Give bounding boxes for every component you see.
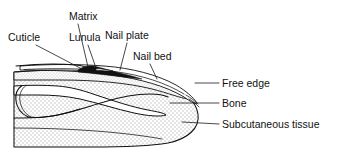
label-nail-bed: Nail bed [133,50,172,62]
label-lunula: Lunula [69,31,101,43]
label-free-edge: Free edge [222,77,270,89]
label-subcutaneous-tissue: Subcutaneous tissue [222,118,320,130]
label-bone: Bone [222,97,247,109]
label-matrix: Matrix [69,10,98,22]
label-cuticle: Cuticle [8,31,40,43]
nail-anatomy-figure: Matrix Cuticle Lunula Nail plate Nail be… [0,0,337,164]
nail-anatomy-illustration: Matrix Cuticle Lunula Nail plate Nail be… [0,0,337,164]
leader-nail-plate [120,43,127,70]
label-nail-plate: Nail plate [105,29,149,41]
leader-lunula [88,45,96,68]
